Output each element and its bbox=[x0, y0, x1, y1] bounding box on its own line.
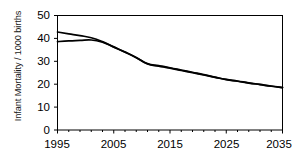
plot-area bbox=[0, 0, 293, 162]
infant-mortality-line-chart: Infant Mortality / 1000 births 50 40 30 … bbox=[0, 0, 293, 162]
plot-frame bbox=[58, 16, 283, 131]
y-axis-ticks bbox=[54, 16, 58, 131]
